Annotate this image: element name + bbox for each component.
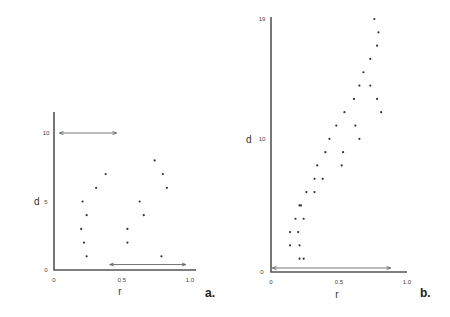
data-point [160, 255, 162, 257]
data-point [166, 187, 168, 189]
y-tick-label: 0 [44, 267, 48, 273]
data-point [162, 173, 164, 175]
double-arrow [110, 263, 186, 266]
data-point [143, 214, 145, 216]
panel-label: b. [420, 286, 431, 300]
figure: 00.51.00510dra. 00.51.001019drb. [0, 0, 450, 317]
data-point [289, 231, 291, 233]
x-tick-label: 0.5 [118, 277, 127, 283]
data-point [81, 200, 83, 202]
data-point [303, 258, 305, 260]
data-point [341, 164, 343, 166]
data-point [362, 71, 364, 73]
panel-a-chart: 00.51.00510dra. [34, 112, 215, 300]
data-point [126, 228, 128, 230]
y-axis-label: d [246, 134, 252, 145]
data-point [343, 111, 345, 113]
data-point [105, 173, 107, 175]
data-point [95, 187, 97, 189]
data-point [322, 178, 324, 180]
panel-label: a. [205, 286, 215, 300]
data-point [298, 258, 300, 260]
data-point [369, 84, 371, 86]
data-point [324, 151, 326, 153]
data-point [298, 244, 300, 246]
data-point [289, 244, 291, 246]
data-point [373, 18, 375, 20]
y-axis-label: d [34, 196, 40, 207]
data-point [86, 255, 88, 257]
x-axis-label: r [118, 286, 122, 297]
axes [271, 17, 407, 272]
data-point [154, 159, 156, 161]
double-arrow [272, 267, 390, 270]
data-point [313, 191, 315, 193]
data-point [354, 124, 356, 126]
data-point [294, 218, 296, 220]
y-tick-label: 10 [259, 136, 266, 142]
axes [54, 112, 196, 270]
panel-b-chart: 00.51.001019drb. [246, 16, 431, 300]
x-tick-label: 1.0 [403, 279, 412, 285]
data-point [139, 200, 141, 202]
x-tick-label: 1.0 [186, 277, 195, 283]
data-point [86, 214, 88, 216]
data-point [83, 242, 85, 244]
y-tick-label: 10 [43, 130, 50, 136]
data-point [353, 98, 355, 100]
data-point [342, 151, 344, 153]
data-point [377, 31, 379, 33]
data-point [376, 45, 378, 47]
data-point [305, 191, 307, 193]
data-point [303, 218, 305, 220]
data-point [126, 242, 128, 244]
data-point [316, 164, 318, 166]
data-point [300, 204, 302, 206]
data-point [313, 178, 315, 180]
x-tick-label: 0 [269, 279, 273, 285]
x-tick-label: 0.5 [335, 279, 344, 285]
data-point [358, 84, 360, 86]
data-point [297, 231, 299, 233]
data-point [358, 138, 360, 140]
data-point [376, 98, 378, 100]
data-point [328, 138, 330, 140]
data-point [80, 228, 82, 230]
x-axis-label: r [335, 289, 339, 300]
y-tick-label: 5 [44, 199, 48, 205]
double-arrow [59, 132, 116, 135]
data-point [369, 58, 371, 60]
data-point [380, 111, 382, 113]
x-tick-label: 0 [52, 277, 56, 283]
data-point [335, 124, 337, 126]
y-tick-label: 0 [260, 269, 264, 275]
y-tick-label: 19 [259, 16, 266, 22]
